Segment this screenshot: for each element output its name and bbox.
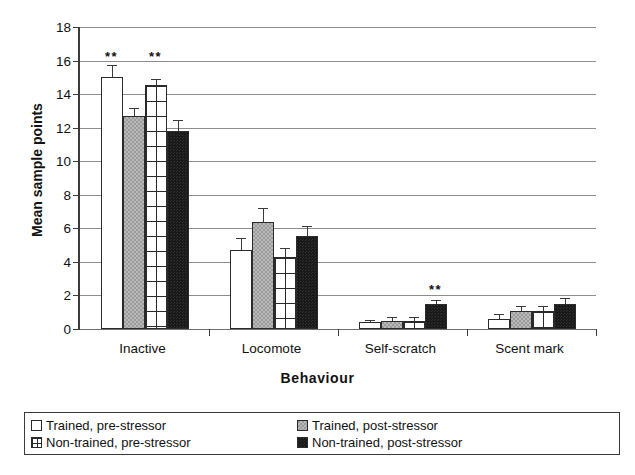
x-axis-category-label: Scent mark — [495, 341, 563, 356]
y-axis-tick — [73, 94, 80, 95]
error-bar — [307, 226, 308, 236]
error-bar-cap — [107, 65, 117, 66]
error-bar-cap — [365, 320, 375, 321]
legend-swatch-icon — [31, 420, 42, 431]
error-bar-cap — [516, 306, 526, 307]
plot-area: 024681012141618****** — [78, 27, 596, 330]
legend-label: Non-trained, post-stressor — [312, 435, 462, 450]
y-axis-title: Mean sample points — [29, 55, 45, 285]
error-bar — [134, 108, 135, 116]
bar — [167, 131, 189, 329]
significance-marker: ** — [105, 50, 118, 63]
x-axis-separator — [596, 329, 597, 336]
legend-item: Trained, post-stressor — [297, 417, 462, 434]
y-axis-tick-label: 6 — [63, 221, 71, 236]
y-axis-tick-label: 10 — [56, 154, 71, 169]
error-bar-cap — [280, 248, 290, 249]
bar — [296, 236, 318, 329]
x-axis-separator — [338, 329, 339, 336]
y-axis-tick-label: 8 — [63, 187, 71, 202]
legend-label: Trained, post-stressor — [312, 418, 438, 433]
error-bar-cap — [494, 314, 504, 315]
bar — [101, 77, 123, 329]
y-axis-tick — [73, 128, 80, 129]
bar — [381, 321, 403, 329]
bar — [274, 257, 296, 329]
error-bar — [285, 248, 286, 257]
significance-marker: ** — [429, 283, 442, 296]
legend-swatch-icon — [297, 420, 308, 431]
error-bar-cap — [173, 120, 183, 121]
y-axis-tick — [73, 295, 80, 296]
x-axis-category-label: Self-scratch — [365, 341, 436, 356]
error-bar-cap — [151, 79, 161, 80]
error-bar-cap — [560, 298, 570, 299]
y-axis-tick — [73, 195, 80, 196]
bar — [145, 85, 167, 329]
x-axis-category-label: Locomote — [242, 341, 301, 356]
error-bar-cap — [387, 317, 397, 318]
y-axis-tick-label: 14 — [56, 87, 71, 102]
legend-swatch-icon — [297, 437, 308, 448]
error-bar-cap — [236, 238, 246, 239]
error-bar-cap — [409, 317, 419, 318]
gridline — [80, 27, 596, 28]
x-axis-category-label: Inactive — [119, 341, 166, 356]
bar — [123, 116, 145, 329]
legend-item: Non-trained, pre-stressor — [31, 434, 191, 451]
x-axis-separator — [209, 329, 210, 336]
error-bar-cap — [538, 306, 548, 307]
y-axis-tick — [73, 161, 80, 162]
y-axis-tick — [73, 228, 80, 229]
bar — [425, 304, 447, 329]
legend-column-left: Trained, pre-stressor Non-trained, pre-s… — [31, 417, 191, 451]
bar — [230, 250, 252, 329]
bar — [403, 321, 425, 329]
bar — [532, 311, 554, 329]
legend-column-right: Trained, post-stressor Non-trained, post… — [297, 417, 462, 451]
y-axis-tick — [73, 262, 80, 263]
legend-item: Trained, pre-stressor — [31, 417, 191, 434]
error-bar — [178, 120, 179, 131]
error-bar — [263, 208, 264, 222]
significance-marker: ** — [149, 50, 162, 63]
error-bar-cap — [129, 108, 139, 109]
legend-label: Non-trained, pre-stressor — [46, 435, 191, 450]
bar — [359, 322, 381, 329]
bar — [488, 319, 510, 329]
error-bar-cap — [302, 226, 312, 227]
legend-label: Trained, pre-stressor — [46, 418, 166, 433]
legend-item: Non-trained, post-stressor — [297, 434, 462, 451]
y-axis-tick-label: 12 — [56, 120, 71, 135]
y-axis-tick-label: 16 — [56, 53, 71, 68]
y-axis-tick-label: 4 — [63, 254, 71, 269]
bar-chart-figure: Mean sample points 024681012141618******… — [0, 0, 635, 475]
y-axis-tick — [73, 329, 80, 330]
error-bar — [112, 65, 113, 78]
y-axis-tick-label: 0 — [63, 322, 71, 337]
bar — [554, 304, 576, 329]
error-bar-cap — [258, 208, 268, 209]
error-bar-cap — [431, 300, 441, 301]
legend-swatch-icon — [31, 437, 42, 448]
x-axis-title: Behaviour — [0, 370, 635, 386]
y-axis-tick-label: 18 — [56, 20, 71, 35]
error-bar — [241, 238, 242, 250]
y-axis-tick — [73, 27, 80, 28]
chart-legend: Trained, pre-stressor Non-trained, pre-s… — [24, 412, 620, 455]
y-axis-tick-label: 2 — [63, 288, 71, 303]
bar — [252, 222, 274, 329]
bar — [510, 311, 532, 329]
x-axis-separator — [467, 329, 468, 336]
y-axis-tick — [73, 61, 80, 62]
